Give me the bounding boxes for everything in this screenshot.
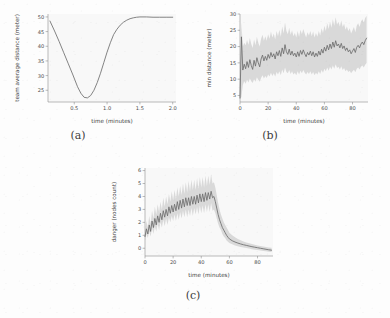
- panel-b-x-tick-label: 60: [321, 105, 327, 111]
- panel-c-x-axis-title: time (minutes): [188, 272, 229, 278]
- panel-b-caption: (b): [240, 129, 300, 142]
- panel-b: 51015202530020406080 time (minutes) min …: [198, 6, 378, 126]
- panel-a-x-axis-title: time (minutes): [91, 118, 132, 124]
- panel-c-x-tick-label: 60: [226, 259, 232, 265]
- panel-b-y-tick-label: 10: [230, 76, 236, 82]
- panel-a-svg: 2530354045500.51.01.52.0 time (minutes) …: [8, 6, 186, 126]
- panel-a-y-tick-label: 50: [38, 14, 44, 20]
- panel-b-y-tick-label: 30: [230, 11, 236, 17]
- panel-b-y-tick-label: 25: [230, 27, 236, 33]
- panel-c-y-tick-label: 2: [138, 219, 141, 225]
- panel-c-x-tick-label: 80: [254, 259, 260, 265]
- panel-a: 2530354045500.51.01.52.0 time (minutes) …: [8, 6, 186, 126]
- panel-b-x-tick-label: 20: [265, 105, 271, 111]
- panel-c-y-tick-label: 1: [138, 232, 141, 238]
- panel-a-y-tick-label: 45: [38, 29, 44, 35]
- panel-b-y-tick-label: 5: [233, 92, 236, 98]
- panel-b-x-axis-title: time (minutes): [283, 118, 324, 124]
- panel-a-x-tick-label: 2.0: [169, 105, 177, 111]
- panel-a-y-tick-label: 40: [38, 43, 44, 49]
- panel-c-y-tick-label: 4: [138, 193, 141, 199]
- panel-b-svg: 51015202530020406080 time (minutes) min …: [198, 6, 378, 126]
- panel-b-y-tick-label: 15: [230, 60, 236, 66]
- panel-c-y-tick-label: 0: [138, 245, 141, 251]
- panel-c-x-tick-label: 0: [143, 259, 146, 265]
- panel-c: 0123456020406080 time (minutes) danger (…: [103, 160, 283, 282]
- panel-a-y-tick-label: 35: [38, 58, 44, 64]
- panel-b-x-tick-label: 80: [349, 105, 355, 111]
- panel-b-x-tick-label: 0: [238, 105, 241, 111]
- panel-c-y-tick-label: 3: [138, 206, 141, 212]
- panel-c-svg: 0123456020406080 time (minutes) danger (…: [103, 160, 283, 282]
- panel-c-y-axis-title: danger (nodes count): [111, 182, 118, 242]
- panel-a-x-tick-label: 0.5: [70, 105, 78, 111]
- panel-c-y-tick-label: 6: [138, 167, 141, 173]
- panel-a-y-tick-label: 25: [38, 87, 44, 93]
- panel-c-caption: (c): [163, 289, 223, 302]
- panel-c-y-tick-label: 5: [138, 180, 141, 186]
- panel-a-y-tick-label: 30: [38, 73, 44, 79]
- panel-a-x-tick-label: 1.0: [103, 105, 111, 111]
- panel-a-plot-background: [48, 14, 176, 102]
- panel-b-y-axis-title: min distance (meter): [206, 29, 212, 88]
- panel-a-x-tick-label: 1.5: [136, 105, 144, 111]
- panel-b-y-tick-label: 20: [230, 43, 236, 49]
- panel-c-x-tick-label: 20: [170, 259, 176, 265]
- panel-a-y-axis-title: team average distance (meter): [14, 14, 21, 102]
- panel-a-caption: (a): [48, 129, 108, 142]
- panel-c-x-tick-label: 40: [198, 259, 204, 265]
- figure-container: 2530354045500.51.01.52.0 time (minutes) …: [0, 0, 390, 318]
- panel-b-x-tick-label: 40: [293, 105, 299, 111]
